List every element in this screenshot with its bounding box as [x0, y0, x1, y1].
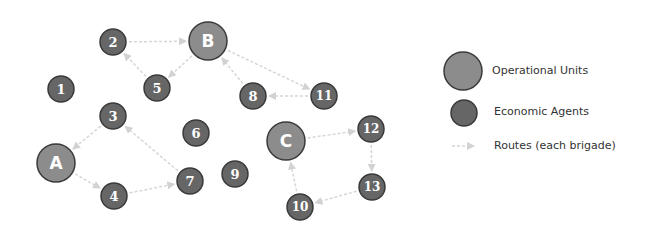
route-edge-13-to-10	[315, 191, 356, 202]
operational-unit-C: C	[267, 122, 305, 160]
economic-agent-11: 11	[311, 83, 337, 109]
route-edge-4-to-7	[130, 184, 175, 193]
route-edge-7-to-3	[125, 126, 178, 170]
node-label: 3	[108, 109, 117, 124]
node-label: C	[280, 131, 292, 151]
route-edge-B-to-11	[228, 50, 310, 89]
route-edge-2-to-B	[129, 41, 186, 42]
node-label: 2	[108, 35, 117, 50]
node-label: 5	[152, 81, 161, 96]
economic-agent-8: 8	[240, 83, 266, 109]
node-label: 10	[292, 200, 309, 214]
operational-unit-A: A	[37, 144, 75, 182]
node-label: 9	[230, 167, 239, 182]
route-edge-5-to-2	[124, 54, 146, 77]
route-edge-3-to-A	[73, 126, 101, 149]
network-nodes: ABC12345678910111213	[37, 22, 385, 220]
economic-agent-2: 2	[100, 29, 126, 55]
economic-agent-1: 1	[48, 76, 74, 102]
node-label: A	[49, 153, 63, 173]
legend-operational-icon	[444, 52, 482, 90]
economic-agent-7: 7	[177, 168, 203, 194]
node-label: 7	[185, 174, 194, 189]
node-label: 11	[316, 89, 333, 103]
route-edge-B-to-5	[169, 56, 192, 77]
legend	[444, 52, 482, 146]
route-edge-8-to-B	[222, 58, 243, 84]
node-label: 1	[56, 82, 65, 97]
node-label: 8	[248, 89, 257, 104]
node-label: B	[202, 31, 215, 51]
node-label: 6	[191, 126, 200, 141]
route-edge-C-to-12	[308, 131, 355, 138]
economic-agent-6: 6	[183, 120, 209, 146]
economic-agent-4: 4	[101, 183, 127, 209]
operational-unit-B: B	[189, 22, 227, 60]
legend-operational-label: Operational Units	[492, 64, 588, 77]
network-diagram: ABC12345678910111213	[0, 0, 669, 236]
route-edge-A-to-4	[75, 174, 100, 188]
node-label: 4	[109, 189, 118, 204]
economic-agent-13: 13	[359, 174, 385, 200]
economic-agent-5: 5	[144, 75, 170, 101]
economic-agent-9: 9	[222, 161, 248, 187]
legend-routes-label: Routes (each brigade)	[494, 139, 616, 152]
route-edge-10-to-C	[291, 163, 297, 192]
economic-agent-10: 10	[287, 194, 313, 220]
node-label: 13	[364, 180, 381, 194]
economic-agent-3: 3	[100, 103, 126, 129]
economic-agent-12: 12	[358, 116, 384, 142]
legend-agent-icon	[451, 100, 477, 126]
node-label: 12	[363, 122, 380, 136]
legend-agent-label: Economic Agents	[494, 105, 589, 118]
